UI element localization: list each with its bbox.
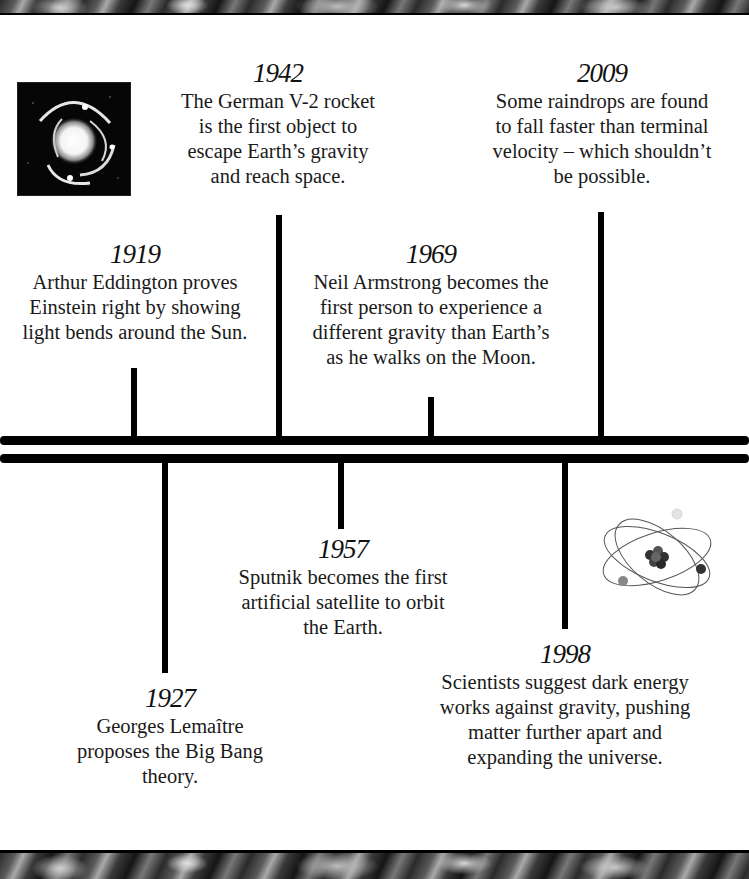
event-year: 2009 bbox=[462, 57, 742, 89]
connector-1927 bbox=[162, 460, 168, 673]
event-description: Sputnik becomes the first artificial sat… bbox=[205, 565, 481, 640]
timeline-lower-line bbox=[0, 454, 749, 463]
einstein-ring-icon bbox=[18, 83, 130, 195]
connector-1969 bbox=[428, 397, 434, 438]
timeline-upper-line bbox=[0, 436, 749, 445]
event-description: Georges Lemaître proposes the Big Bang t… bbox=[40, 714, 300, 789]
event-1927: 1927 Georges Lemaître proposes the Big B… bbox=[40, 682, 300, 789]
event-year: 1998 bbox=[415, 638, 715, 670]
connector-1957 bbox=[338, 460, 344, 529]
event-1998: 1998 Scientists suggest dark energy work… bbox=[415, 638, 715, 770]
event-year: 1969 bbox=[288, 238, 574, 270]
event-year: 1919 bbox=[0, 238, 270, 270]
event-1969: 1969 Neil Armstrong becomes the first pe… bbox=[288, 238, 574, 370]
event-1942: 1942 The German V-2 rocket is the first … bbox=[140, 57, 416, 189]
connector-1998 bbox=[562, 460, 568, 629]
bottom-space-photo-band bbox=[0, 850, 749, 879]
event-2009: 2009 Some raindrops are found to fall fa… bbox=[462, 57, 742, 189]
top-space-photo-band bbox=[0, 0, 749, 15]
event-1919: 1919 Arthur Eddington proves Einstein ri… bbox=[0, 238, 270, 345]
nucleus bbox=[645, 546, 669, 569]
gravitational-lens-image bbox=[18, 83, 130, 195]
event-year: 1942 bbox=[140, 57, 416, 89]
event-year: 1927 bbox=[40, 682, 300, 714]
connector-2009 bbox=[598, 212, 604, 438]
event-description: The German V-2 rocket is the first objec… bbox=[140, 89, 416, 189]
connector-1919 bbox=[131, 368, 137, 438]
event-description: Arthur Eddington proves Einstein right b… bbox=[0, 270, 270, 345]
event-description: Scientists suggest dark energy works aga… bbox=[415, 670, 715, 770]
atom-icon bbox=[598, 505, 716, 605]
event-1957: 1957 Sputnik becomes the first artificia… bbox=[205, 533, 481, 640]
event-year: 1957 bbox=[205, 533, 481, 565]
event-description: Some raindrops are found to fall faster … bbox=[462, 89, 742, 189]
event-description: Neil Armstrong becomes the first person … bbox=[288, 270, 574, 370]
connector-1942 bbox=[276, 215, 282, 438]
